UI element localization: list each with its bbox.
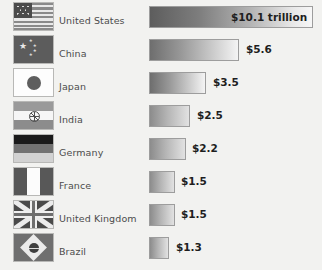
chart-row: Brazil $1.3 [0,231,322,264]
chart-row: India $2.5 [0,99,322,132]
flag-india-icon [13,101,54,130]
value-bar [149,204,175,226]
chart-row: United States $10.1 trillion [0,0,322,33]
value-label: $1.5 [181,175,207,187]
chart-row: Japan $3.5 [0,66,322,99]
value-label: $3.5 [213,76,239,88]
country-label: China [59,48,87,59]
country-label: United Kingdom [59,213,137,224]
chart-row: France $1.5 [0,165,322,198]
flag-brazil-icon [13,233,54,262]
chart-row: United Kingdom $1.5 [0,198,322,231]
chart-row: ★ ★ ★ ★ ★ China $5.6 [0,33,322,66]
chart-row: Germany $2.2 [0,132,322,165]
flag-japan-icon [13,68,54,97]
country-label: United States [59,15,125,26]
value-label: $1.5 [181,208,207,220]
value-label: $5.6 [246,43,272,55]
country-label: India [59,114,83,125]
value-label: $2.2 [192,142,218,154]
value-bar [149,171,175,193]
value-bar [149,72,206,94]
flag-france-icon [13,167,54,196]
flag-china-icon: ★ ★ ★ ★ ★ [13,35,54,64]
country-label: Brazil [59,246,86,257]
value-bar [149,39,239,61]
flag-united-states-icon [13,2,54,31]
flag-germany-icon [13,134,54,163]
value-bar [149,237,169,259]
value-label: $10.1 trillion [231,11,307,23]
country-label: Japan [59,81,86,92]
country-label: Germany [59,147,103,158]
value-label: $2.5 [197,109,223,121]
flag-united-kingdom-icon [13,200,54,229]
value-bar [149,138,186,160]
bar-chart: United States $10.1 trillion ★ ★ ★ ★ ★ C… [0,0,322,270]
country-label: France [59,180,91,191]
value-bar [149,105,190,127]
value-label: $1.3 [176,241,202,253]
